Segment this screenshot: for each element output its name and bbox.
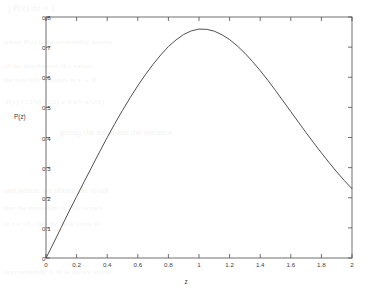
y-axis-ticks — [46, 17, 352, 258]
x-tick-label: 0.4 — [103, 261, 112, 268]
x-tick-label: 1.8 — [317, 261, 326, 268]
plot-area — [0, 0, 369, 296]
x-tick-label: 1.2 — [225, 261, 234, 268]
y-axis-title: P(z) — [14, 113, 26, 120]
data-curve — [46, 29, 352, 258]
x-tick-label: 1.6 — [286, 261, 295, 268]
x-tick-label: 0.6 — [133, 261, 142, 268]
x-tick-label: 0.2 — [72, 261, 81, 268]
x-tick-label: 0 — [44, 261, 47, 268]
x-tick-label: 1 — [197, 261, 200, 268]
x-axis-title: z — [184, 278, 187, 285]
x-tick-label: 2 — [350, 261, 353, 268]
figure-canvas: ∫ P(z) dz = 1 where P(z) is the probabil… — [0, 0, 369, 296]
x-axis-ticks — [46, 17, 352, 258]
x-tick-label: 1.4 — [256, 261, 265, 268]
x-tick-label: 0.8 — [164, 261, 173, 268]
axes-frame — [46, 17, 352, 258]
